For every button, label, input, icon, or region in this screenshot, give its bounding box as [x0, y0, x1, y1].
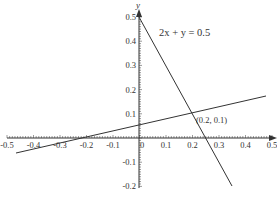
y-tick-label: 0.1	[125, 109, 136, 119]
y-axis-label: y	[135, 0, 140, 10]
x-tick-label: -0.2	[80, 140, 93, 150]
equation-label: 2x + y = 0.5	[159, 27, 210, 38]
x-tick-label: 0.4	[240, 140, 251, 150]
chart: y -0.5 -0.4 -0.3 -0.2 -0.1 0 0.1 0.2 0.3…	[0, 0, 277, 198]
y-tick-label: -0.1	[123, 157, 136, 167]
x-tick-label: 0.1	[161, 140, 172, 150]
x-tick-label: 0.2	[187, 140, 198, 150]
y-tick-label: 0.5	[125, 12, 136, 22]
intersection-label: (0.2, 0.1)	[196, 115, 227, 125]
x-tick-label: 0.3	[214, 140, 225, 150]
chart-svg: y -0.5 -0.4 -0.3 -0.2 -0.1 0 0.1 0.2 0.3…	[0, 0, 277, 198]
x-tick-label: -0.5	[0, 140, 13, 150]
x-tick-label: 0.5	[267, 140, 277, 150]
y-tick-label: 0.3	[125, 60, 136, 70]
y-tick-labels: 0.5 0.4 0.3 0.2 0.1 -0.1 -0.2	[123, 12, 137, 191]
x-tick-label: 0	[140, 140, 144, 150]
x-tick-label: -0.1	[106, 140, 119, 150]
y-tick-label: -0.2	[123, 181, 136, 191]
y-tick-label: 0.2	[125, 85, 136, 95]
y-tick-label: 0.4	[125, 36, 136, 46]
line-2x-plus-y	[139, 17, 232, 186]
y-axis-arrow-icon	[136, 9, 142, 17]
